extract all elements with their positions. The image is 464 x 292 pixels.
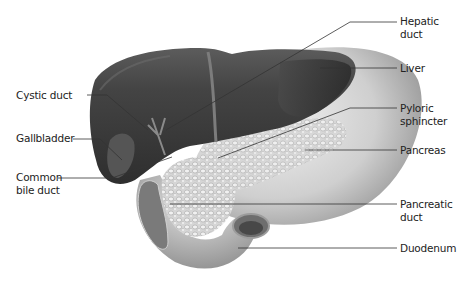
label-pyloric-sphincter: Pyloric sphincter	[400, 102, 447, 128]
label-common-bile-duct: Common bile duct	[16, 171, 62, 197]
anatomy-illustration	[0, 0, 464, 292]
label-hepatic-duct: Hepatic duct	[400, 15, 439, 41]
label-pancreatic-duct: Pancreatic duct	[400, 198, 453, 224]
label-cystic-duct: Cystic duct	[16, 89, 72, 102]
label-liver: Liver	[400, 62, 425, 75]
label-duodenum: Duodenum	[400, 242, 456, 255]
label-pancreas: Pancreas	[400, 144, 446, 157]
label-gallbladder: Gallbladder	[16, 132, 74, 145]
